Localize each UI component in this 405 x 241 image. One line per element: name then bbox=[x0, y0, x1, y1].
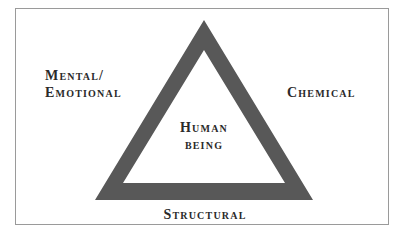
label-mental-line2: Emotional bbox=[45, 84, 122, 101]
label-human-being: Human being bbox=[164, 119, 244, 153]
label-human-line1: Human bbox=[164, 119, 244, 136]
label-chemical: Chemical bbox=[287, 84, 356, 101]
triangle-outline bbox=[95, 20, 313, 200]
label-mental-line1: Mental/ bbox=[45, 67, 122, 84]
label-structural: Structural bbox=[150, 206, 260, 223]
label-structural-line1: Structural bbox=[150, 206, 260, 223]
label-human-line2: being bbox=[164, 136, 244, 153]
label-mental-emotional: Mental/ Emotional bbox=[45, 67, 122, 101]
label-chemical-line1: Chemical bbox=[287, 84, 356, 101]
